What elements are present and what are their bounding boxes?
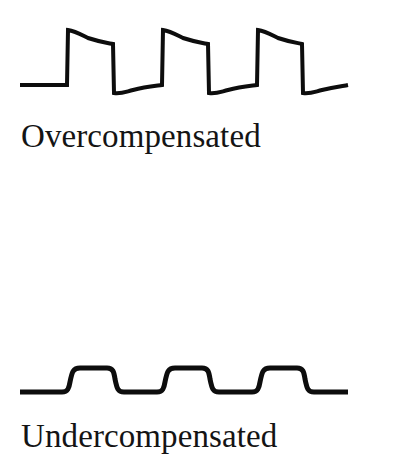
- overcompensated-wave-path: [20, 30, 348, 93]
- caption-overcompensated: Overcompensated: [0, 120, 413, 153]
- waveform-overcompensated: [0, 18, 413, 104]
- figure-root: Overcompensated Undercompensated Compens…: [0, 0, 413, 473]
- panel-undercompensated: Undercompensated: [0, 160, 413, 312]
- overcompensated-trace-svg: [0, 18, 413, 104]
- panel-overcompensated: Overcompensated: [0, 0, 413, 160]
- panel-compensated-correctly: Compensated correctly: [0, 312, 413, 473]
